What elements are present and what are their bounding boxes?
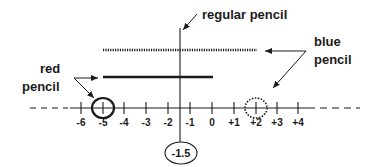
red-pencil-arrow-circle	[74, 78, 94, 98]
midpoint-label: -1.5	[172, 147, 191, 159]
number-line-diagram: -6 -5 -4 -3 -2 -1 0 +1 +2 +3 +4 -1.5 reg…	[0, 0, 379, 167]
tick-labels: -6 -5 -4 -3 -2 -1 0 +1 +2 +3 +4	[77, 117, 305, 128]
blue-pencil-label-line2: pencil	[314, 52, 352, 67]
tick-label: -2	[164, 117, 173, 128]
blue-pencil-arrow-circle	[273, 51, 306, 88]
regular-pencil-label: regular pencil	[202, 7, 287, 22]
tick-label: 0	[209, 117, 215, 128]
tick-label: -1	[186, 117, 195, 128]
tick-label: +1	[228, 117, 240, 128]
number-line: -6 -5 -4 -3 -2 -1 0 +1 +2 +3 +4	[30, 102, 360, 128]
regular-pencil-arrow	[183, 14, 197, 30]
tick-label: -4	[120, 117, 129, 128]
tick-label: -3	[142, 117, 151, 128]
red-pencil-label-line1: red	[40, 61, 60, 76]
blue-pencil-label-line1: blue	[314, 34, 341, 49]
tick-label: +4	[292, 117, 304, 128]
tick-label: +3	[271, 117, 283, 128]
tick-label: -6	[77, 117, 86, 128]
red-pencil-label-line2: pencil	[22, 79, 60, 94]
